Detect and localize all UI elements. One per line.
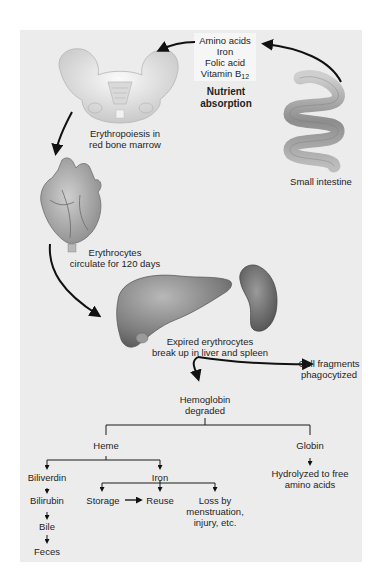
heme-label: Heme [86,440,126,451]
bile-label: Bile [27,521,67,532]
cell-fragments-label: Cell fragments phagocytized [292,358,366,380]
nutrient-iron: Iron [196,46,254,57]
loss-label: Loss by menstruation, injury, etc. [182,495,248,528]
nutrient-vitamin-b12: Vitamin B12 [196,68,254,82]
globin-result-label: Hydrolyzed to free amino acids [260,468,360,490]
hemoglobin-label: Hemoglobin degraded [170,394,240,416]
spleen-illustration [240,265,277,331]
feces-label: Feces [22,546,72,557]
nutrient-folic-acid: Folic acid [196,57,254,68]
nutrient-list: Amino acids Iron Folic acid Vitamin B12 [196,35,254,82]
globin-label: Globin [290,440,330,451]
heart-illustration [41,158,101,252]
arrow-nutrients-to-marrow [160,42,195,50]
arrow-to-hemoglobin [194,357,198,378]
bilirubin-label: Bilirubin [17,495,77,506]
bone-marrow-label: Erythropoiesis in red bone marrow [80,128,170,150]
nutrient-amino-acids: Amino acids [196,35,254,46]
biliverdin-label: Biliverdin [17,472,77,483]
iron-label: Iron [140,472,180,483]
arrow-marrow-to-heart [56,112,72,152]
storage-label: Storage [82,495,124,506]
reuse-label: Reuse [142,495,178,506]
pelvis-illustration [59,49,178,123]
small-intestine-illustration [290,77,338,166]
circulation-label: Erythrocytes circulate for 120 days [60,247,170,269]
small-intestine-label: Small intestine [286,176,356,187]
nutrient-absorption-caption: Nutrient absorption [196,86,256,110]
liver-spleen-label: Expired erythrocytes break up in liver a… [140,336,280,358]
